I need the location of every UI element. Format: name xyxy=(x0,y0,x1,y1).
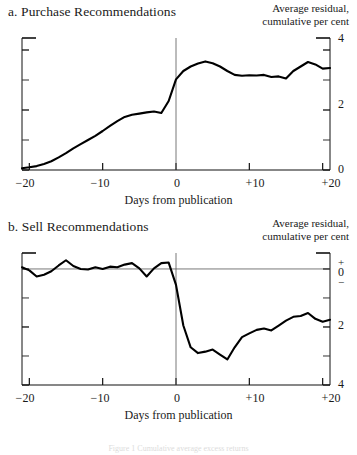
panel-b-xtick--20: −20 xyxy=(5,391,45,406)
panel-b-xtick-+10: +10 xyxy=(235,391,275,406)
panel-b-ytick-4: 4 xyxy=(338,377,356,392)
panel-b-ytick-2: 2 xyxy=(338,318,356,333)
panel-a-xtick-0: 0 xyxy=(157,176,197,191)
panel-b-xtick-+20: +20 xyxy=(311,391,351,406)
panel-a-xtick-+20: +20 xyxy=(311,176,351,191)
panel-b-plot xyxy=(0,215,357,405)
chart-panel-sell: b. Sell Recommendations Average residual… xyxy=(0,215,357,455)
panel-b-xtick-0: 0 xyxy=(157,391,197,406)
panel-b-xtick--10: −10 xyxy=(80,391,120,406)
panel-a-xtick--20: −20 xyxy=(5,176,45,191)
panel-a-xaxis-title: Days from publication xyxy=(0,193,357,208)
panel-a-plot xyxy=(0,0,357,190)
panel-a-xtick-+10: +10 xyxy=(235,176,275,191)
panel-b-ytick-minus: − xyxy=(338,278,356,287)
panel-a-ytick-2: 2 xyxy=(338,97,356,112)
panel-a-ytick-4: 4 xyxy=(338,31,356,46)
panel-b-ytick-zero-stack: + 0 − xyxy=(338,258,356,286)
figure-footer-caption: Figure 1 Cumulative average excess retur… xyxy=(0,444,357,453)
panel-b-xaxis-title: Days from publication xyxy=(0,408,357,423)
panel-a-svg xyxy=(0,0,357,190)
panel-a-ytick-0: 0 xyxy=(338,162,356,177)
panel-a-xtick--10: −10 xyxy=(80,176,120,191)
chart-panel-purchase: a. Purchase Recommendations Average resi… xyxy=(0,0,357,218)
panel-b-svg xyxy=(0,215,357,405)
